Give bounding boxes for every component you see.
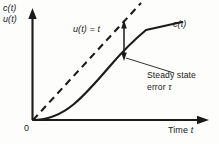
- y-axis-label-ut: u(t): [3, 15, 17, 25]
- origin-label: 0: [24, 124, 29, 134]
- y-axis-arrowhead: [28, 8, 36, 19]
- ramp-input-dashed-line: [33, 3, 141, 120]
- y-axis: [28, 8, 36, 120]
- x-axis-label-time-variable: t: [191, 125, 194, 135]
- x-axis: [33, 116, 210, 124]
- y-axis-label-ct: c(t): [3, 4, 16, 14]
- tau-symbol: τ: [168, 82, 171, 92]
- steady-state-line2-prefix: error: [147, 82, 168, 92]
- x-axis-label-time: Time t: [168, 126, 193, 136]
- steady-state-line1: Steady state: [147, 70, 196, 80]
- steady-state-error-figure: c(t) u(t) u(t) = t c(t) 0 Time t Steady …: [0, 0, 219, 144]
- error-arrow-head-top: [121, 20, 127, 29]
- x-axis-label-time-text: Time: [168, 125, 191, 135]
- x-axis-arrowhead: [197, 116, 209, 124]
- steady-state-error-arrow: [121, 20, 127, 61]
- steady-state-error-annotation: Steady stateerror τ: [147, 70, 196, 93]
- ramp-input-equation-label: u(t) = t: [73, 25, 100, 35]
- response-curve-label: c(t): [173, 20, 186, 30]
- error-arrow-head-bottom: [121, 53, 127, 62]
